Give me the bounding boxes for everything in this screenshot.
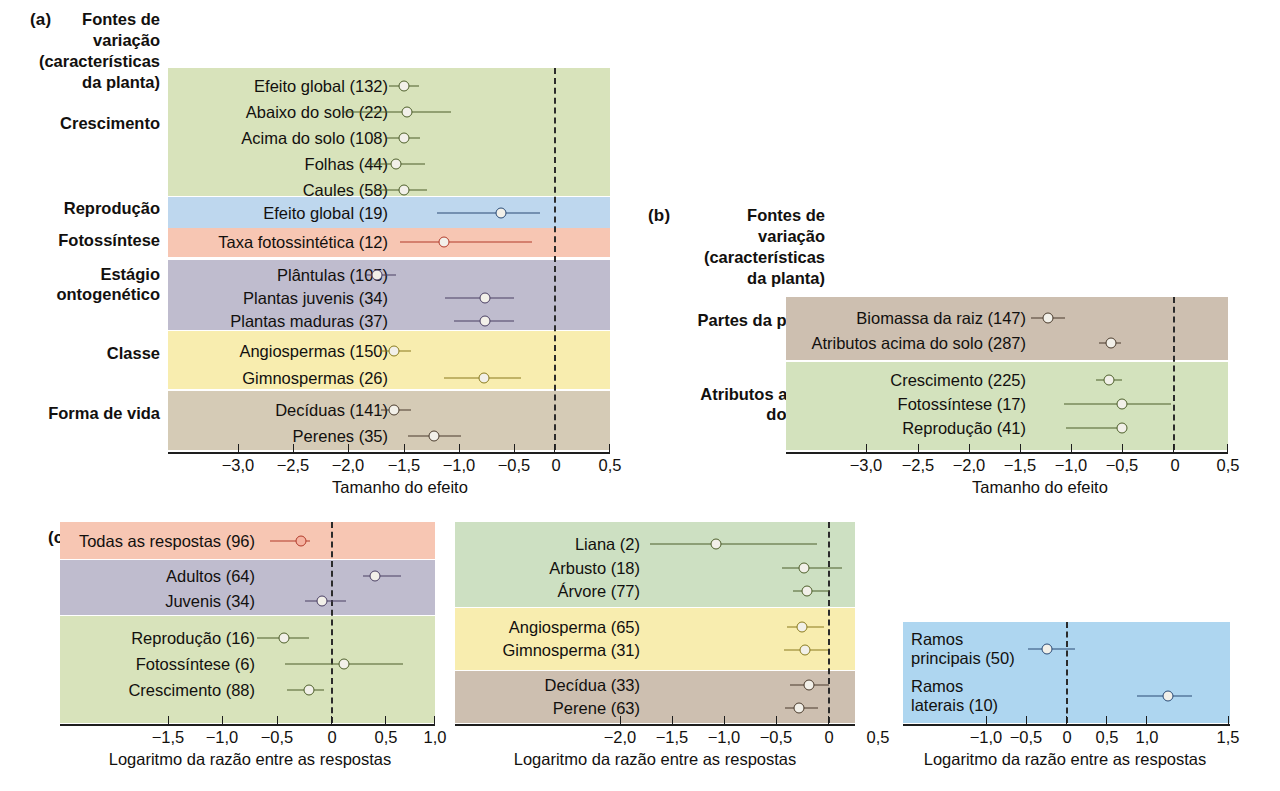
panel-c: (c) Todas as respostas (96) Adultos (64)…: [0, 500, 1280, 791]
axis-tick-label: 0,5: [599, 456, 622, 475]
data-point: [399, 133, 410, 144]
row-label: Plantas juvenis (34): [58, 289, 388, 308]
axis-tick-label: −2,0: [604, 728, 637, 747]
data-point: [389, 405, 400, 416]
data-point: [480, 316, 491, 327]
data-point: [1104, 375, 1115, 386]
panel-b-header: Fontes de variação (características da p…: [640, 205, 825, 289]
data-point: [711, 539, 722, 550]
axis-tick-label: 0,5: [375, 728, 398, 747]
data-point: [797, 622, 808, 633]
axis-tick-label: −1,5: [388, 456, 421, 475]
axis-tick: [866, 444, 867, 453]
axis-tick: [404, 444, 405, 453]
axis-tick: [724, 716, 725, 725]
axis-tick: [620, 716, 621, 725]
data-point: [399, 185, 410, 196]
axis-tick: [969, 444, 970, 453]
axis-tick: [222, 716, 223, 725]
data-point: [296, 536, 307, 547]
axis-tick: [293, 444, 294, 453]
axis-tick-label: −2,5: [277, 456, 310, 475]
row-label: Angiosperma (65): [410, 618, 640, 637]
panel-c2-axis-line: [455, 724, 855, 726]
data-point: [802, 586, 813, 597]
data-point: [304, 685, 315, 696]
axis-tick: [238, 444, 239, 453]
row-label: Crescimento (88): [10, 681, 255, 700]
axis-tick-label: −0,5: [261, 728, 294, 747]
panel-c1-axis-title: Logaritmo da razão entre as respostas: [109, 750, 392, 769]
axis-tick-label: 1,0: [424, 728, 447, 747]
axis-tick-label: 0,5: [1217, 456, 1240, 475]
panel-c3-axis-title: Logaritmo da razão entre as respostas: [924, 750, 1207, 769]
data-point: [479, 373, 490, 384]
row-label: Decíduas (141): [58, 401, 388, 420]
data-point: [1042, 644, 1053, 655]
axis-tick: [1020, 444, 1021, 453]
axis-tick: [348, 444, 349, 453]
data-point: [391, 159, 402, 170]
data-point: [1163, 691, 1174, 702]
panel-a-zero-line: [554, 68, 556, 450]
data-point: [402, 107, 413, 118]
panel-b-plot-area: Biomassa da raiz (147) Atributos acima d…: [786, 297, 1228, 450]
data-point: [439, 237, 450, 248]
panel-b-axis-line: [786, 452, 1228, 454]
panel-c1-zero-line: [331, 522, 333, 723]
axis-tick-label: 0: [551, 456, 560, 475]
panel-c2-zero-line: [828, 522, 830, 723]
axis-tick-label: −1,5: [1004, 456, 1037, 475]
data-point: [389, 346, 400, 357]
axis-tick-label: 0: [327, 728, 336, 747]
axis-tick-label: 1,5: [1217, 728, 1240, 747]
axis-tick-label: −2,5: [902, 456, 935, 475]
row-label: Ramos principais (50): [911, 630, 1031, 668]
panel-c3-plot-area: Ramos principais (50) Ramos laterais (10…: [903, 622, 1230, 723]
panel-a-axis-line: [168, 452, 610, 454]
row-label: Plântulas (105): [58, 266, 388, 285]
data-point: [1117, 399, 1128, 410]
row-label: Folhas (44): [58, 155, 388, 174]
axis-tick-label: 1,0: [1136, 728, 1159, 747]
axis-tick-label: 0: [824, 728, 833, 747]
data-point: [480, 293, 491, 304]
axis-tick: [1228, 716, 1229, 725]
axis-tick-label: −0,5: [1010, 728, 1043, 747]
row-label: Gimnosperma (31): [410, 641, 640, 660]
axis-tick: [331, 716, 332, 725]
data-point: [799, 563, 810, 574]
data-point: [1117, 423, 1128, 434]
row-label: Perene (63): [410, 699, 640, 718]
panel-c2-axis-title: Logaritmo da razão entre as respostas: [514, 750, 797, 769]
axis-tick: [1026, 716, 1027, 725]
row-label: Perenes (35): [58, 427, 388, 446]
ci-bar: [344, 112, 451, 113]
axis-tick: [1227, 444, 1228, 453]
axis-tick-label: 0,5: [1096, 728, 1119, 747]
row-label: Efeito global (132): [58, 77, 388, 96]
panel-c3-zero-line: [1066, 622, 1068, 723]
data-point: [429, 431, 440, 442]
axis-tick: [672, 716, 673, 725]
data-point: [372, 270, 383, 281]
axis-tick: [168, 716, 169, 725]
axis-tick: [1071, 444, 1072, 453]
axis-tick: [828, 716, 829, 725]
axis-tick-label: −0,5: [1106, 456, 1139, 475]
data-point: [800, 645, 811, 656]
row-label: Reprodução (16): [10, 629, 255, 648]
axis-tick: [1173, 444, 1174, 453]
row-label: Ramos laterais (10): [911, 677, 1031, 715]
axis-tick: [277, 716, 278, 725]
axis-tick: [514, 444, 515, 453]
data-point: [399, 81, 410, 92]
row-label: Fotossíntese (6): [10, 655, 255, 674]
row-label: Árvore (77): [410, 582, 640, 601]
data-point: [794, 703, 805, 714]
panel-c1-plot-area: Todas as respostas (96) Adultos (64) Juv…: [60, 522, 435, 723]
data-point: [496, 208, 507, 219]
row-label: Acima do solo (108): [58, 129, 388, 148]
row-label: Plantas maduras (37): [58, 312, 388, 331]
row-label: Todas as respostas (96): [10, 532, 255, 551]
